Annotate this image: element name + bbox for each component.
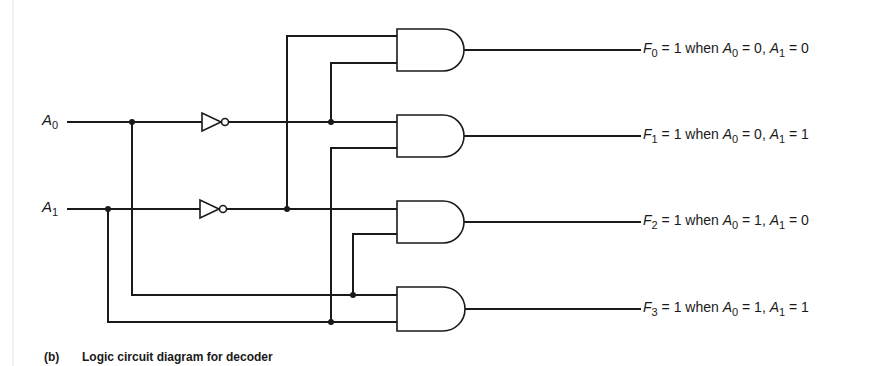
and-gate-1-icon [397, 115, 464, 157]
junction-a1 [105, 206, 111, 212]
and-gate-2-icon [397, 201, 464, 243]
wire-a0-to-gate2 [353, 234, 397, 295]
junction-not-a0 [328, 119, 334, 125]
caption-text: Logic circuit diagram for decoder [82, 350, 273, 364]
input-label-a0: A0 [42, 111, 58, 131]
junction-a1-gate3 [328, 319, 334, 325]
input-label-a1: A1 [42, 198, 58, 218]
not-gate-a0-icon [202, 113, 221, 131]
not-bubble-a1 [220, 206, 227, 213]
caption-tag: (b) [44, 350, 82, 364]
not-bubble-a0 [222, 119, 229, 126]
junction-not-a1 [284, 206, 290, 212]
junction-a0 [129, 119, 135, 125]
junction-a0-gate2 [350, 292, 356, 298]
figure-caption: (b)Logic circuit diagram for decoder [44, 350, 273, 364]
wire-not-a0-to-gate0 [331, 63, 397, 122]
not-gate-a1-icon [200, 200, 219, 218]
output-label-f3: F3 = 1 when A0 = 1, A1 = 1 [643, 299, 809, 318]
and-gate-3-icon [397, 287, 465, 331]
output-label-f1: F1 = 1 when A0 = 0, A1 = 1 [643, 126, 809, 145]
output-label-f2: F2 = 1 when A0 = 1, A1 = 0 [643, 212, 809, 231]
output-label-f0: F0 = 1 when A0 = 0, A1 = 0 [643, 40, 809, 59]
and-gate-0-icon [397, 29, 464, 71]
